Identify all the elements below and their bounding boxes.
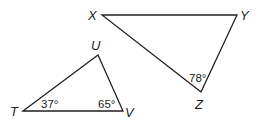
vertex-label-z: Z <box>194 97 204 112</box>
vertex-label-y: Y <box>240 8 250 23</box>
vertex-label-t: T <box>10 104 19 119</box>
triangle-xyz <box>102 15 237 92</box>
angle-label-v: 65° <box>98 98 115 110</box>
vertex-label-x: X <box>87 8 98 23</box>
triangles-diagram: X Y Z 78° U T V 37° 65° <box>0 0 261 124</box>
vertex-label-u: U <box>91 38 101 53</box>
angle-label-z: 78° <box>189 72 206 84</box>
angle-label-t: 37° <box>41 98 58 110</box>
vertex-label-v: V <box>125 105 135 120</box>
